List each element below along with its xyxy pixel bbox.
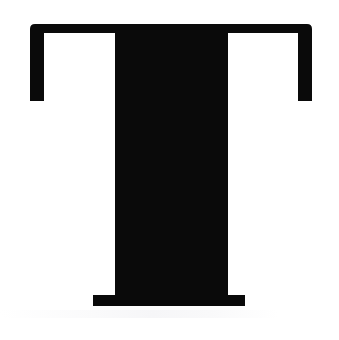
glyph-canvas: T <box>0 0 339 340</box>
letter-t-glyph-svg <box>0 0 339 340</box>
